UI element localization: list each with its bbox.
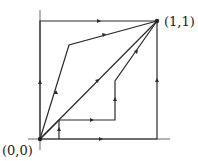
- arrow-icon: [97, 19, 101, 23]
- origin-point: [38, 137, 42, 141]
- arrow-icon: [38, 80, 42, 84]
- arrow-icon: [113, 97, 117, 101]
- arrow-icon: [99, 137, 103, 141]
- end-label: (1,1): [164, 14, 195, 29]
- arrow-icon: [155, 78, 159, 82]
- origin-label: (0,0): [2, 143, 33, 158]
- end-point: [155, 19, 159, 23]
- path-diagram: (0,0) (1,1): [0, 0, 198, 161]
- arrow-icon: [57, 127, 61, 131]
- arrow-icon: [90, 118, 94, 122]
